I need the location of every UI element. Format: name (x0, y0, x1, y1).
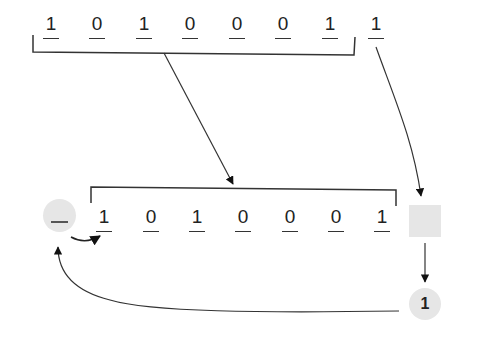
output-circle: 1 (409, 288, 441, 320)
top-bit-3: 0 (180, 14, 200, 34)
arrow-output-to-carry (58, 247, 399, 312)
top-bit-6: 1 (320, 14, 340, 34)
carry-in-circle (43, 199, 76, 232)
top-bit-0: 1 (41, 14, 61, 34)
top-bit-2: 1 (134, 14, 154, 34)
diagram-canvas: 1 0 1 0 0 0 1 1 1 0 1 0 0 0 1 1 (0, 0, 478, 351)
bottom-bit-2: 1 (187, 207, 207, 227)
bottom-bracket (91, 187, 396, 206)
bottom-bit-1: 0 (141, 207, 161, 227)
top-bit-7: 1 (366, 14, 386, 34)
arrow-lsb-to-box (376, 47, 421, 196)
bottom-bit-5: 0 (326, 207, 346, 227)
arrow-carry-to-first-bit (71, 236, 100, 241)
bottom-bit-3: 0 (233, 207, 253, 227)
top-bit-1: 0 (87, 14, 107, 34)
bottom-bit-0: 1 (94, 207, 114, 227)
shifted-out-box (409, 205, 441, 237)
top-bit-5: 0 (273, 14, 293, 34)
arrow-top-to-bottom (164, 53, 233, 184)
top-bit-4: 0 (227, 14, 247, 34)
empty-slot-dash (51, 221, 68, 223)
bottom-bit-6: 1 (372, 207, 392, 227)
connector-lines (0, 0, 478, 351)
output-circle-label: 1 (409, 288, 441, 320)
bottom-bit-4: 0 (280, 207, 300, 227)
